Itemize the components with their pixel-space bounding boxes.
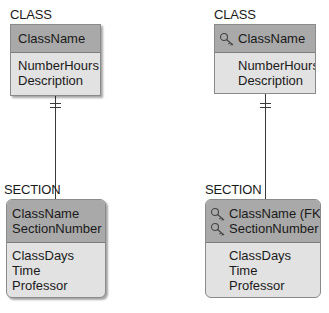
attribute: NumberHours — [18, 58, 100, 73]
entity-name-section-right: SECTION — [205, 183, 261, 197]
attribute-section: NumberHours Description — [215, 53, 315, 88]
entity-name-section-left: SECTION — [4, 183, 60, 197]
entity-class-right[interactable]: ClassName NumberHours Description — [214, 24, 316, 94]
attribute: Time — [12, 263, 105, 278]
key-attribute: SectionNumber — [210, 221, 320, 236]
attribute: NumberHours — [238, 58, 315, 73]
attribute: Professor — [229, 278, 320, 293]
primary-key-section: ClassName (FK) SectionNumber — [206, 200, 320, 243]
key-attribute: SectionNumber — [12, 221, 105, 236]
key-icon — [219, 32, 236, 46]
entity-section-left[interactable]: ClassName SectionNumber ClassDays Time P… — [6, 199, 106, 298]
primary-key-section: ClassName — [215, 25, 315, 53]
attribute-section: NumberHours Description — [11, 53, 100, 88]
key-attribute: ClassName — [219, 31, 315, 46]
entity-section-right[interactable]: ClassName (FK) SectionNumber ClassDays T… — [205, 199, 321, 298]
key-icon — [210, 207, 227, 221]
attribute: Description — [18, 73, 100, 88]
entity-name-class-right: CLASS — [214, 8, 256, 22]
key-attribute: ClassName (FK) — [210, 206, 320, 221]
entity-class-left[interactable]: ClassName NumberHours Description — [10, 24, 101, 96]
attribute: ClassDays — [229, 248, 320, 263]
attribute-section: ClassDays Time Professor — [7, 243, 105, 293]
attribute: Description — [238, 73, 315, 88]
attribute: ClassDays — [12, 248, 105, 263]
primary-key-section: ClassName SectionNumber — [7, 200, 105, 243]
attribute-section: ClassDays Time Professor — [206, 243, 320, 293]
key-icon — [210, 222, 227, 236]
attribute: Time — [229, 263, 320, 278]
key-attribute: ClassName — [18, 31, 100, 46]
key-attribute: ClassName — [12, 206, 105, 221]
entity-name-class-left: CLASS — [10, 8, 52, 22]
attribute: Professor — [12, 278, 105, 293]
primary-key-section: ClassName — [11, 25, 100, 53]
